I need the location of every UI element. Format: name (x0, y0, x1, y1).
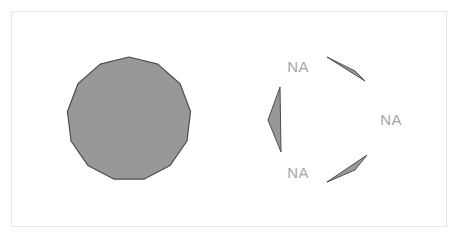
plot-canvas: NA NA NA (0, 0, 458, 244)
figure-root: NA NA NA (0, 0, 458, 244)
filled-polygon-shape (67, 57, 190, 179)
na-label-bottom-left: NA (287, 164, 309, 181)
na-label-top-left: NA (287, 58, 309, 75)
sliver-left-shape (268, 87, 281, 152)
na-label-right: NA (380, 111, 402, 128)
sliver-top-right-shape (327, 57, 365, 81)
sliver-bottom-right-shape (327, 155, 367, 182)
